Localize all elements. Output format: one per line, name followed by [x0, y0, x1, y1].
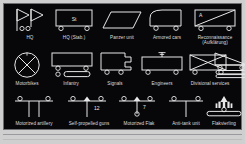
panzer-parallelogram-icon	[101, 7, 145, 33]
motorbikes-circle-cross-icon	[10, 51, 44, 79]
legend-item-label: HQ	[27, 35, 34, 40]
legend-item-label: Motorized artillery	[15, 121, 52, 126]
legend-row-1: HQ St HQ (Stab.) Panzer unit	[8, 7, 237, 51]
legend-item-hq[interactable]: HQ	[12, 7, 48, 33]
legend-row-3: Motorized artillery 12 Self-propelled gu…	[8, 95, 237, 135]
legend-item-armored-cars[interactable]: Armored cars	[145, 7, 189, 33]
legend-item-motorbikes[interactable]: Motorbikes	[10, 51, 44, 79]
motorized-artillery-icon	[12, 95, 56, 121]
legend-item-label: Self-propelled guns	[69, 121, 110, 126]
signals-flag-notch-icon	[97, 51, 139, 79]
legend-item-label: Reconnaissance (Aufklärung)	[187, 35, 243, 46]
legend-item-label: Motorized Flak	[124, 121, 155, 126]
legend-item-supply-column[interactable]	[214, 51, 245, 81]
armored-car-icon	[145, 7, 189, 33]
page-divider-line-1	[3, 134, 242, 135]
legend-item-label: Signals	[107, 81, 122, 86]
reconnaissance-annotation: A	[199, 12, 203, 18]
legend-item-engineers[interactable]: Engineers	[138, 51, 186, 81]
legend-item-label: Anti-tank unit	[172, 121, 200, 126]
reconnaissance-diagonal-icon: A	[191, 7, 239, 33]
motorized-flak-annotation: 7	[143, 104, 146, 110]
self-propelled-guns-icon: 12	[65, 95, 113, 121]
legend-row-2: Motorbikes Infantry	[8, 51, 237, 95]
legend-item-label: Engineers	[151, 81, 172, 86]
legend-item-label: HQ (Stab.)	[63, 35, 85, 40]
legend-item-label: Divisional services	[191, 81, 230, 86]
legend-item-panzer[interactable]: Panzer unit	[101, 7, 145, 33]
infantry-box-bar-icon	[48, 51, 96, 81]
self-propelled-guns-annotation: 12	[94, 105, 100, 111]
legend-item-label: Flakvierling	[212, 121, 236, 126]
page-divider-line-2	[3, 139, 242, 140]
legend-item-motorized-artillery[interactable]: Motorized artillery	[12, 95, 56, 121]
legend-item-motorized-flak[interactable]: 7 Motorized Flak	[116, 95, 162, 121]
legend-item-label: Armored cars	[153, 35, 181, 40]
supply-column-wedge-icon	[214, 51, 245, 81]
legend-item-label: Motorbikes	[16, 81, 39, 86]
screenshot-root: HQ St HQ (Stab.) Panzer unit	[0, 0, 245, 144]
legend-item-reconnaissance[interactable]: A Reconnaissance (Aufklärung)	[191, 7, 239, 33]
engineers-mast-icon	[138, 51, 186, 81]
flakvierling-icon	[205, 95, 243, 121]
legend-item-label: Panzer unit	[110, 35, 134, 40]
hq-stab-annotation: St	[72, 16, 77, 22]
anti-tank-unit-icon	[166, 95, 208, 121]
legend-item-anti-tank-unit[interactable]: Anti-tank unit	[166, 95, 208, 121]
legend-item-self-propelled-guns[interactable]: 12 Self-propelled guns	[65, 95, 113, 121]
hq-stab-box-icon: St	[52, 7, 96, 33]
legend-item-signals[interactable]: Signals	[97, 51, 139, 79]
legend-item-flakvierling[interactable]: Flakvierling	[205, 95, 243, 121]
legend-item-label: Infantry	[63, 81, 79, 86]
motorized-flak-icon: 7	[116, 95, 162, 121]
legend-item-infantry[interactable]: Infantry	[48, 51, 96, 81]
legend-inner: HQ St HQ (Stab.) Panzer unit	[4, 4, 241, 129]
legend-plate: HQ St HQ (Stab.) Panzer unit	[3, 3, 242, 130]
hq-double-pennant-icon	[12, 7, 48, 33]
legend-item-hq-stab[interactable]: St HQ (Stab.)	[52, 7, 96, 33]
